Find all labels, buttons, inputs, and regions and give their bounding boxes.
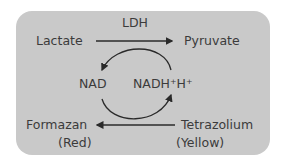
nadh-to-nad-arc-arrow (102, 49, 171, 70)
product-label: Pyruvate (184, 35, 240, 48)
dye-product-label: Formazan (26, 119, 87, 132)
enzyme-label: LDH (122, 17, 148, 30)
cofactor-reduced-label: NADH⁺H⁺ (133, 78, 193, 91)
substrate-label: Lactate (36, 35, 83, 48)
nad-to-nadh-arc-arrow (102, 95, 171, 119)
cofactor-oxidized-label: NAD (79, 78, 107, 91)
dye-substrate-label: Tetrazolium (181, 119, 253, 132)
dye-product-color-label: (Red) (58, 137, 92, 150)
dye-substrate-color-label: (Yellow) (176, 137, 224, 150)
